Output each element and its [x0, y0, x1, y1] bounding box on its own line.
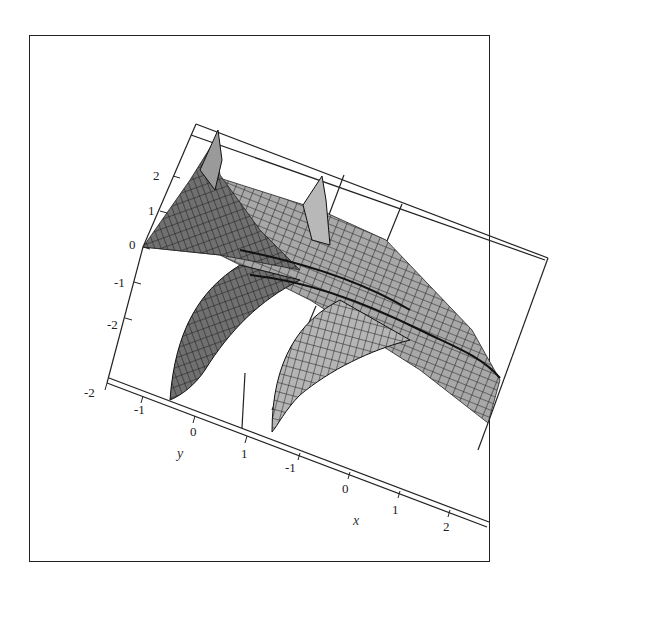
y-tick-0: 0 — [190, 424, 197, 439]
y-tick-neg1: -1 — [134, 402, 145, 417]
z-tick-neg2: -2 — [107, 317, 118, 332]
y-tick-1: 1 — [241, 446, 248, 461]
z-tick-neg1: -1 — [114, 275, 125, 290]
surface-plot: 2 1 0 -1 -2 -2 -1 0 1 y -1 0 1 2 x — [0, 0, 654, 630]
y-axis-label: y — [175, 446, 184, 461]
x-tick-2: 2 — [443, 519, 450, 534]
y-tick-neg2: -2 — [84, 385, 95, 400]
z-tick-1: 1 — [148, 203, 155, 218]
x-tick-0: 0 — [342, 481, 349, 496]
x-axis-ticks — [298, 453, 450, 517]
x-axis-label: x — [352, 513, 360, 528]
z-tick-0: 0 — [129, 237, 136, 252]
z-tick-2: 2 — [153, 168, 160, 183]
x-tick-neg1: -1 — [285, 460, 296, 475]
x-tick-1: 1 — [392, 502, 399, 517]
